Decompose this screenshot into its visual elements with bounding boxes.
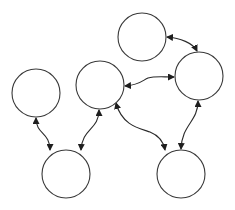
node-circle [118, 13, 166, 61]
edge-b-e [81, 110, 99, 150]
node-circle [76, 61, 124, 109]
graph-diagram [0, 0, 235, 210]
edge-b-f [116, 103, 165, 150]
node-circle [175, 52, 223, 100]
node-f [157, 150, 205, 198]
node-circle [157, 150, 205, 198]
node-b [76, 61, 124, 109]
edge-d-f [181, 101, 198, 149]
node-d [175, 52, 223, 100]
nodes-layer [12, 13, 223, 198]
node-e [42, 150, 90, 198]
node-a [12, 69, 60, 117]
edge-c-d [167, 37, 197, 51]
edge-a-e [36, 118, 50, 150]
node-circle [12, 69, 60, 117]
edge-b-d [125, 77, 174, 86]
node-c [118, 13, 166, 61]
node-circle [42, 150, 90, 198]
